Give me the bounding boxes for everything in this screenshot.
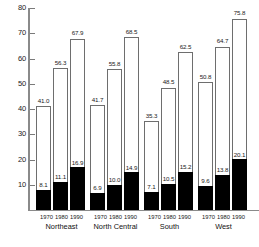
- y-axis-tick-label: 70: [18, 29, 26, 37]
- bar-value-label-inner: 20.1: [228, 152, 252, 158]
- bar-value-label-outer: 67.9: [65, 30, 91, 36]
- bar-value-label-inner: 6.9: [86, 185, 110, 191]
- x-axis-year-label: 1980: [216, 214, 231, 220]
- bar-chart: 1020304050607080 41.08.156.311.167.916.9…: [0, 0, 259, 247]
- x-axis-year-label: 1990: [123, 214, 138, 220]
- bar-inner[interactable]: [215, 175, 230, 210]
- x-axis-year-label: 1980: [108, 214, 123, 220]
- x-axis-year-label: 1990: [69, 214, 84, 220]
- bar-value-label-inner: 15.2: [174, 164, 198, 170]
- bar-inner[interactable]: [70, 167, 85, 210]
- bar-value-label-outer: 75.8: [227, 10, 253, 16]
- x-axis-year-labels: 197019801990: [36, 214, 87, 220]
- x-axis-year-label: 1980: [54, 214, 69, 220]
- bar-value-label-inner: 9.6: [194, 178, 218, 184]
- y-axis-tick-label: 20: [18, 156, 26, 164]
- y-axis-tick-label: 80: [18, 4, 26, 12]
- x-axis-year-labels: 197019801990: [198, 214, 249, 220]
- bar-inner[interactable]: [36, 190, 51, 210]
- bar-inner[interactable]: [178, 172, 193, 210]
- bar-value-label-outer: 68.5: [119, 29, 145, 35]
- bar-inner[interactable]: [107, 185, 122, 210]
- x-axis-year-label: 1990: [231, 214, 246, 220]
- x-axis-group-label: West: [184, 223, 259, 231]
- y-axis-tick-label: 60: [18, 55, 26, 63]
- plot-area: 41.08.156.311.167.916.941.76.955.810.068…: [28, 8, 259, 210]
- bar-inner[interactable]: [232, 159, 247, 210]
- bar-value-label-inner: 14.9: [120, 165, 144, 171]
- bar-inner[interactable]: [90, 193, 105, 210]
- bar-value-label-inner: 10.0: [103, 177, 127, 183]
- y-axis-tick-label: 10: [18, 181, 26, 189]
- bar-value-label-inner: 10.5: [157, 176, 181, 182]
- bar-group: 50.89.664.713.875.820.1: [198, 8, 249, 210]
- x-axis-year-label: 1990: [177, 214, 192, 220]
- x-axis-year-label: 1970: [201, 214, 216, 220]
- bar-value-label-inner: 7.1: [140, 184, 164, 190]
- bar-group: 35.37.148.510.562.515.2: [144, 8, 195, 210]
- y-axis-tick-label: 50: [18, 80, 26, 88]
- x-axis-year-label: 1970: [39, 214, 54, 220]
- x-axis-year-label: 1970: [93, 214, 108, 220]
- bar-inner[interactable]: [161, 184, 176, 211]
- x-axis-year-label: 1970: [147, 214, 162, 220]
- x-axis-year-labels: 197019801990: [144, 214, 195, 220]
- bar-group: 41.76.955.810.068.514.9: [90, 8, 141, 210]
- x-axis-year-labels: 197019801990: [90, 214, 141, 220]
- y-axis-tick-label: 30: [18, 130, 26, 138]
- bar-inner[interactable]: [144, 192, 159, 210]
- bar-value-label-inner: 13.8: [211, 167, 235, 173]
- bar-inner[interactable]: [124, 172, 139, 210]
- bar-group: 41.08.156.311.167.916.9: [36, 8, 87, 210]
- bar-value-label-inner: 16.9: [66, 160, 90, 166]
- x-axis-baseline: [28, 210, 259, 211]
- y-axis-tick-label: 40: [18, 105, 26, 113]
- bar-value-label-inner: 11.1: [49, 174, 73, 180]
- bar-value-label-inner: 8.1: [32, 182, 56, 188]
- bar-value-label-outer: 62.5: [173, 44, 199, 50]
- bar-inner[interactable]: [53, 182, 68, 210]
- x-axis-year-label: 1980: [162, 214, 177, 220]
- bar-inner[interactable]: [198, 186, 213, 210]
